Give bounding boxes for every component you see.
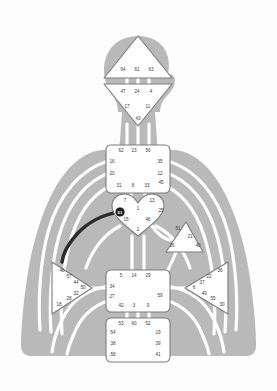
gate-label: 62: [118, 148, 124, 153]
bodygraph-svg: 64 61 63 47 24 4 17 11 43 62 23 56 16 35…: [0, 0, 277, 391]
gate-label: 51: [175, 226, 181, 231]
gate-label: 42: [118, 303, 124, 308]
gate-label: 25: [158, 208, 164, 213]
gate-label: 32: [73, 291, 79, 296]
gate-label: 15: [123, 217, 129, 222]
gate-label: 18: [56, 302, 62, 307]
gate-label: 45: [158, 180, 164, 185]
gate-label: 47: [120, 89, 126, 94]
gate-label: 34: [109, 284, 115, 289]
gate-label: 13: [149, 198, 155, 203]
gate-label: 54: [110, 330, 116, 335]
gate-label: 3: [133, 303, 136, 308]
gate-label: 29: [145, 273, 151, 278]
gate-label: 63: [148, 67, 154, 72]
gate-label: 58: [110, 352, 116, 357]
gate-label: 53: [118, 321, 124, 326]
gate-label: 57: [66, 274, 72, 279]
gate-label: 59: [157, 293, 163, 298]
gate-label: 56: [145, 148, 151, 153]
gate-label: 2: [137, 227, 140, 232]
gate-label: 24: [134, 89, 140, 94]
gate-label: 37: [199, 280, 205, 285]
gate-label: 49: [201, 291, 207, 296]
gate-label: 39: [155, 341, 161, 346]
gate-label: 23: [131, 148, 137, 153]
gate-label: 9: [147, 303, 150, 308]
gate-labels-head: 64 61 63: [120, 67, 154, 72]
gate-label: 36: [217, 268, 223, 273]
gate-label: 31: [116, 183, 122, 188]
gate-label: 52: [145, 321, 151, 326]
gate-label: 43: [135, 116, 141, 121]
gate-label: 46: [145, 217, 151, 222]
activated-gate-51[interactable]: 51: [115, 207, 125, 217]
gate-label: 8: [132, 183, 135, 188]
gate-label: 11: [146, 104, 151, 109]
gate-label: 17: [124, 104, 130, 109]
gate-label: 1: [137, 206, 140, 211]
gate-label: 33: [144, 183, 150, 188]
gate-label: 4: [150, 89, 153, 94]
bodygraph-chart: 64 61 63 47 24 4 17 11 43 62 23 56 16 35…: [0, 0, 277, 391]
gate-label: 21: [187, 234, 193, 239]
gate-label: 55: [210, 296, 216, 301]
activated-gate-label: 51: [118, 210, 123, 215]
gate-label: 41: [155, 352, 161, 357]
gate-label: 27: [109, 294, 115, 299]
gate-label: 22: [206, 274, 212, 279]
gate-label: 38: [110, 341, 116, 346]
gate-label: 35: [157, 159, 163, 164]
gate-label: 40: [195, 243, 201, 248]
gate-label: 6: [193, 285, 196, 290]
gate-label: 16: [109, 159, 115, 164]
gate-label: 30: [219, 302, 225, 307]
gate-label: 64: [120, 67, 126, 72]
gate-label: 12: [157, 171, 163, 176]
center-sacral[interactable]: [106, 270, 170, 312]
gate-label: 28: [66, 296, 72, 301]
gate-label: 48: [59, 268, 65, 273]
gate-label: 26: [169, 243, 175, 248]
gate-label: 50: [80, 285, 86, 290]
gate-label: 14: [131, 273, 137, 278]
gate-label: 44: [73, 280, 79, 285]
gate-label: 5: [120, 273, 123, 278]
gate-label: 19: [155, 330, 161, 335]
gate-label: 60: [131, 321, 137, 326]
gate-label: 20: [109, 171, 115, 176]
gate-label: 61: [134, 67, 140, 72]
gate-label: 7: [124, 198, 127, 203]
